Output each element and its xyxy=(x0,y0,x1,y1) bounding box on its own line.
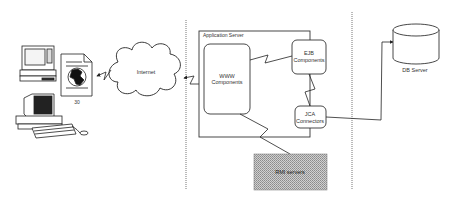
jca-connectors-box[interactable] xyxy=(295,106,326,128)
document-label: 30 xyxy=(74,99,80,105)
ejb-components-line1: EJB xyxy=(304,50,314,56)
www-components-line2: Components xyxy=(211,79,242,85)
db-server-label: DB Server xyxy=(402,67,428,73)
laptop-icon xyxy=(20,46,56,81)
application-server-label: Application Server xyxy=(203,32,244,38)
document-icon xyxy=(61,54,92,96)
jca-connectors-line2: Connectors xyxy=(296,118,324,124)
ejb-components-line2: Components xyxy=(293,57,324,63)
edge-jca-db xyxy=(326,42,393,120)
jca-connectors-line1: JCA xyxy=(305,111,316,117)
internet-label: Internet xyxy=(137,69,156,75)
architecture-diagram: 30 Internet Application Server WWW Compo… xyxy=(0,0,454,198)
rmi-servers-label: RMI servers xyxy=(275,169,305,175)
db-server-icon xyxy=(393,24,439,64)
